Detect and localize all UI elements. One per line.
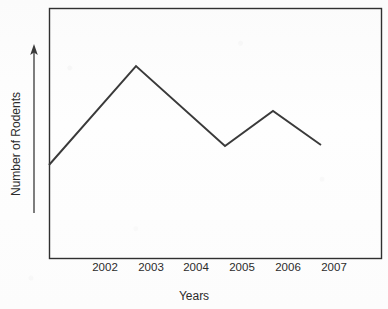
x-tick-label-2007: 2007 <box>310 261 358 273</box>
plot-frame <box>50 9 382 259</box>
x-tick-label-2002: 2002 <box>81 261 129 273</box>
x-tick-label-2003: 2003 <box>127 261 175 273</box>
x-axis-title: Years <box>0 289 388 303</box>
y-axis-title: Number of Rodents <box>9 81 23 207</box>
x-tick-label-2006: 2006 <box>264 261 312 273</box>
x-tick-label-2005: 2005 <box>218 261 266 273</box>
line-chart-figure: 2002 2003 2004 2005 2006 2007 Years Numb… <box>0 0 388 309</box>
data-line-number-of-rodents <box>49 66 321 165</box>
up-arrow-icon <box>30 44 38 213</box>
x-tick-label-2004: 2004 <box>172 261 220 273</box>
